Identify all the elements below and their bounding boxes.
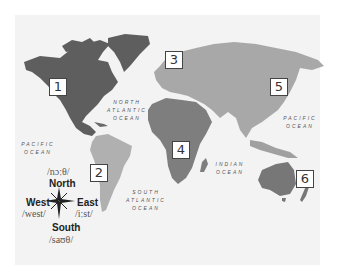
south-atlantic-ocean-label: SOUTH ATLANTIC OCEAN	[126, 188, 166, 212]
region-box-1: 1	[49, 78, 67, 96]
west-label: West	[26, 197, 50, 208]
north-label: North	[49, 178, 76, 189]
region-box-2: 2	[90, 164, 108, 182]
region-box-3: 3	[165, 51, 183, 69]
region-box-6: 6	[296, 170, 314, 188]
west-phonetic: /west/	[22, 208, 46, 219]
north-phonetic: /nɔːθ/	[47, 166, 70, 177]
east-label: East	[77, 197, 98, 208]
region-box-5: 5	[270, 78, 288, 96]
indian-ocean-label: INDIAN OCEAN	[212, 160, 248, 176]
south-label: South	[52, 222, 80, 233]
north-atlantic-ocean-label: NORTH ATLANTIC OCEAN	[104, 98, 150, 122]
world-map-graphic	[0, 0, 340, 274]
east-phonetic: /iːst/	[75, 208, 93, 219]
region-box-4: 4	[172, 141, 190, 159]
world-map: 1 2 3 4 5 6 NORTH ATLANTIC OCEAN SOUTH A…	[0, 0, 340, 274]
pacific-ocean-west-label: PACIFIC OCEAN	[20, 140, 56, 156]
south-phonetic: /saʊθ/	[49, 234, 73, 245]
pacific-ocean-east-label: PACIFIC OCEAN	[282, 114, 318, 130]
